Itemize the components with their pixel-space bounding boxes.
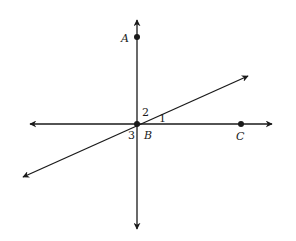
point-b-label: B: [144, 130, 152, 141]
point-a-label: A: [121, 33, 129, 44]
angle-3-label: 3: [128, 130, 135, 141]
diagram-svg: [0, 0, 296, 241]
point-c-dot: [238, 121, 244, 127]
angle-1-label: 1: [159, 113, 166, 124]
point-c-label: C: [236, 131, 244, 142]
geometry-diagram: A B C 1 2 3: [0, 0, 296, 241]
angle-2-label: 2: [142, 107, 149, 118]
point-a-dot: [134, 34, 140, 40]
point-b-dot: [134, 121, 140, 127]
